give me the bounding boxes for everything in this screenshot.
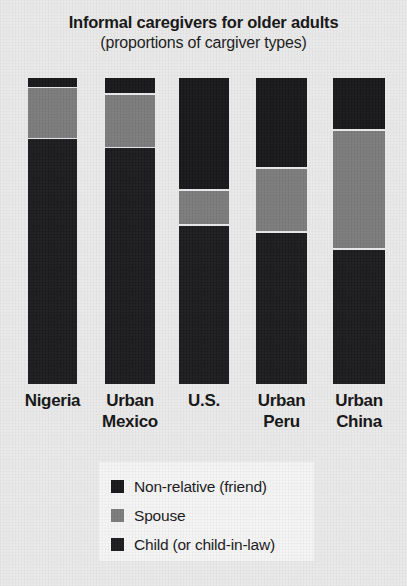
- bar-column-urban-peru: [256, 78, 307, 384]
- bar-segment-child: [105, 148, 155, 384]
- legend-swatch-icon: [111, 509, 124, 522]
- bar-segment-non-relative: [333, 78, 385, 129]
- category-label-line1: Urban: [258, 391, 306, 410]
- legend-item-spouse: Spouse: [111, 503, 314, 528]
- bar-stack: [28, 78, 77, 384]
- bar-segment-non-relative: [179, 78, 229, 189]
- title-block: Informal caregivers for older adults (pr…: [0, 12, 407, 53]
- bar-segment-spouse: [256, 169, 307, 231]
- category-label-line1: Nigeria: [25, 391, 81, 410]
- legend-swatch-icon: [111, 480, 124, 493]
- chart-subtitle: (proportions of cargiver types): [0, 33, 407, 53]
- category-label-urban-china: Urban China: [320, 390, 398, 432]
- legend-label: Spouse: [134, 507, 185, 525]
- bar-segment-non-relative: [105, 78, 155, 93]
- bar-stack: [179, 78, 229, 384]
- category-label-line1: Urban: [106, 391, 154, 410]
- bar-stack: [105, 78, 155, 384]
- legend-label: Child (or child-in-law): [134, 536, 275, 554]
- category-label-urban-peru: Urban Peru: [243, 390, 320, 432]
- category-label-line2: China: [320, 411, 398, 432]
- bar-stack: [256, 78, 307, 384]
- bar-column-urban-china: [333, 78, 385, 384]
- chart-title: Informal caregivers for older adults: [0, 12, 407, 32]
- bar-segment-child: [256, 233, 307, 384]
- legend-item-non-relative: Non-relative (friend): [111, 474, 314, 499]
- bar-segment-non-relative: [256, 78, 307, 167]
- legend-swatch-icon: [111, 538, 124, 551]
- bar-segment-child: [179, 226, 229, 384]
- category-label-line2: Mexico: [91, 411, 169, 432]
- category-label-urban-mexico: Urban Mexico: [91, 390, 169, 432]
- category-label-line1: U.S.: [188, 391, 220, 410]
- category-label-line1: Urban: [335, 391, 383, 410]
- category-label-us: U.S.: [166, 390, 242, 411]
- legend-item-child: Child (or child-in-law): [111, 532, 314, 557]
- category-label-nigeria: Nigeria: [14, 390, 91, 411]
- bar-segment-spouse: [333, 131, 385, 248]
- bar-segment-spouse: [105, 95, 155, 147]
- bar-segment-spouse: [179, 191, 229, 224]
- bar-column-us: [179, 78, 229, 384]
- bar-column-nigeria: [28, 78, 77, 384]
- chart-figure: Informal caregivers for older adults (pr…: [0, 0, 407, 586]
- category-label-line2: Peru: [243, 411, 320, 432]
- category-labels: Nigeria Urban Mexico U.S. Urban Peru Urb…: [0, 390, 407, 450]
- bar-segment-child: [333, 250, 385, 384]
- bar-stack: [333, 78, 385, 384]
- plot-area: [0, 78, 407, 384]
- bar-segment-non-relative: [28, 78, 77, 87]
- bar-column-urban-mexico: [105, 78, 155, 384]
- legend-label: Non-relative (friend): [134, 478, 267, 496]
- bar-segment-child: [28, 139, 77, 384]
- chart-legend: Non-relative (friend) Spouse Child (or c…: [99, 462, 314, 561]
- bar-segment-spouse: [28, 88, 77, 138]
